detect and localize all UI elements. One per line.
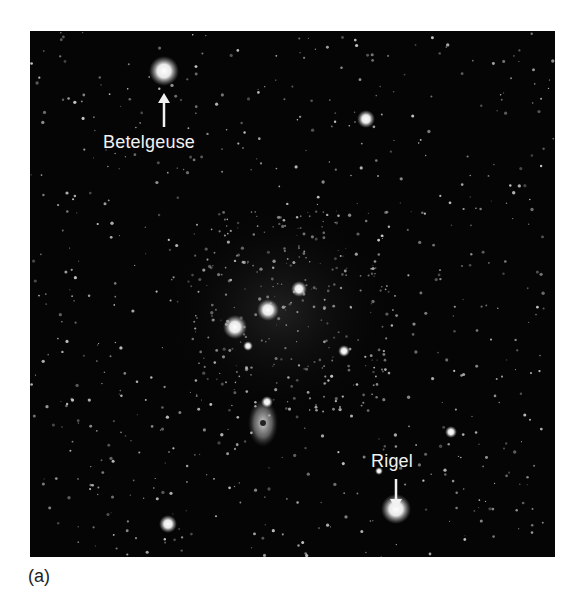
- star-field-svg: [30, 31, 555, 557]
- star-field-photo: Betelgeuse Rigel: [30, 31, 555, 557]
- betelgeuse-star: [149, 56, 179, 86]
- betelgeuse-label: Betelgeuse: [103, 132, 195, 153]
- page-top-margin: [0, 0, 587, 12]
- rigel-label: Rigel: [371, 451, 413, 472]
- figure-caption: (a): [28, 566, 50, 587]
